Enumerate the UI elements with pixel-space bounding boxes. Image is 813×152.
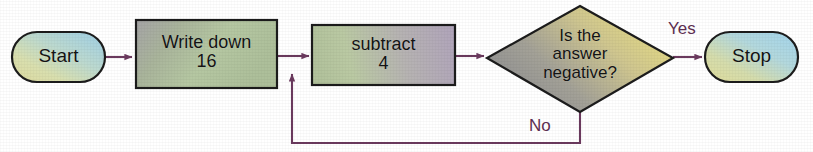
node-start (12, 32, 105, 82)
flowchart-canvas: Start Write down 16 subtract 4 Is the an… (0, 0, 813, 152)
node-is-answer-negative (487, 6, 673, 112)
node-write-down-16 (136, 20, 277, 88)
node-stop (705, 32, 798, 82)
flowchart-svg (0, 0, 813, 152)
node-subtract-4 (312, 25, 455, 85)
